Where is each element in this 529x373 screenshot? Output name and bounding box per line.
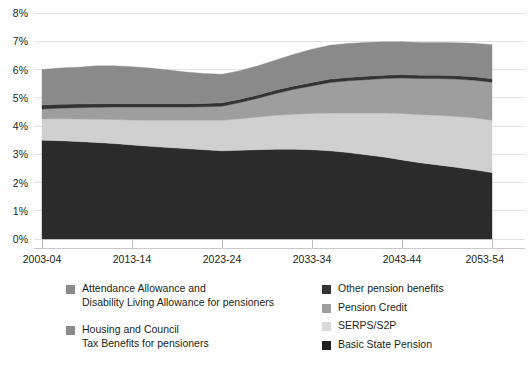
legend-column-left: Attendance Allowance and Disability Livi… bbox=[66, 282, 311, 364]
legend-item: Basic State Pension bbox=[322, 338, 527, 352]
y-axis-tick-label: 7% bbox=[13, 35, 28, 47]
legend-item-label: Basic State Pension bbox=[338, 338, 432, 352]
y-axis-tick-label: 0% bbox=[13, 233, 28, 245]
legend-item: Other pension benefits bbox=[322, 282, 527, 296]
legend-column-right: Other pension benefitsPension CreditSERP… bbox=[322, 282, 527, 356]
legend-item: Housing and Council Tax Benefits for pen… bbox=[66, 323, 311, 350]
x-axis-tick-label: 2013-14 bbox=[113, 253, 152, 265]
x-axis-tick-label: 2023-24 bbox=[203, 253, 242, 265]
x-axis-tick-label: 2003-04 bbox=[23, 253, 62, 265]
legend-item: Attendance Allowance and Disability Livi… bbox=[66, 282, 311, 309]
attendance-allowance-swatch bbox=[66, 285, 75, 294]
legend-item: SERPS/S2P bbox=[322, 319, 527, 333]
x-axis-tick-label: 2033-34 bbox=[293, 253, 332, 265]
legend-item-label: Housing and Council Tax Benefits for pen… bbox=[82, 323, 209, 350]
legend-item-label: Attendance Allowance and Disability Livi… bbox=[82, 282, 274, 309]
basic-state-pension-swatch bbox=[322, 341, 331, 350]
x-axis-tick-label: 2043-44 bbox=[383, 253, 422, 265]
pension-credit-swatch bbox=[322, 304, 331, 313]
x-axis-tick-label: 2053-54 bbox=[465, 253, 504, 265]
legend-item-label: Pension Credit bbox=[338, 301, 407, 315]
chart-legend: Attendance Allowance and Disability Livi… bbox=[0, 282, 529, 373]
y-axis-tick-label: 6% bbox=[13, 64, 28, 76]
y-axis-tick-label: 1% bbox=[13, 205, 28, 217]
legend-item-label: Other pension benefits bbox=[338, 282, 444, 296]
y-axis-tick-label: 8% bbox=[13, 7, 28, 19]
y-axis-tick-label: 4% bbox=[13, 120, 28, 132]
y-axis-tick-label: 2% bbox=[13, 177, 28, 189]
y-axis-tick-label: 5% bbox=[13, 92, 28, 104]
serps-s2p-swatch bbox=[322, 322, 331, 331]
other-pension-benefits-swatch bbox=[322, 285, 331, 294]
housing-benefits-swatch bbox=[66, 326, 75, 335]
legend-item-label: SERPS/S2P bbox=[338, 319, 396, 333]
y-axis-tick-label: 3% bbox=[13, 148, 28, 160]
legend-item: Pension Credit bbox=[322, 301, 527, 315]
chart-plot-area: 0%1%2%3%4%5%6%7%8%2003-042013-142023-242… bbox=[0, 0, 529, 282]
